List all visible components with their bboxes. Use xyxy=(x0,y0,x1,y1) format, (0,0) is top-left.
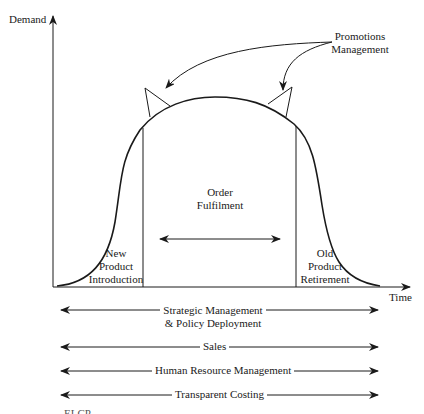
y-axis-label: Demand xyxy=(9,13,46,26)
phase-label-fulfilment: Order Fulfilment xyxy=(190,186,250,212)
caption-fragment: ... ... ... ... ELCP ... ... xyxy=(0,407,424,414)
process-label-costing: Transparent Costing xyxy=(172,388,267,401)
promotion-spike-left-icon xyxy=(145,88,170,117)
promotion-callout-arrow-right xyxy=(283,42,332,90)
promotions-management-label: Promotions Management xyxy=(330,30,390,56)
process-label-strategic: Strategic Management & Policy Deployment xyxy=(160,304,266,330)
promotion-spike-right-icon xyxy=(268,87,292,117)
x-axis-label: Time xyxy=(389,291,412,304)
process-label-sales: Sales xyxy=(200,340,229,353)
promotion-callout-arrow-left xyxy=(166,42,332,88)
phase-label-introduction: New Product Introduction xyxy=(88,247,144,286)
process-label-hrm: Human Resource Management xyxy=(152,364,294,377)
phase-label-retirement: Old Product Retirement xyxy=(297,247,353,286)
